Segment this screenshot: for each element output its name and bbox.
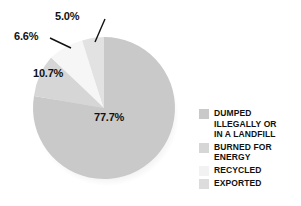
legend-item-label: BURNED FOR ENERGY: [214, 142, 272, 163]
legend-swatch-icon: [199, 109, 209, 119]
pie-chart-screenshot: 5.0% 6.6% 10.7% 77.7% DUMPED ILLEGALLY O…: [0, 0, 301, 206]
leader-line-recycled: [50, 38, 71, 48]
legend-item-burned-for-energy[interactable]: BURNED FOR ENERGY: [199, 142, 301, 163]
legend-item-dumped-illegally-or-in-a-landfill[interactable]: DUMPED ILLEGALLY OR IN A LANDFILL: [199, 108, 301, 140]
legend-label-line: ENERGY: [214, 152, 251, 162]
legend-item-exported[interactable]: EXPORTED: [199, 178, 301, 189]
legend-swatch-icon: [199, 166, 209, 176]
legend-label-line: ILLEGALLY OR: [214, 119, 277, 129]
legend-item-recycled[interactable]: RECYCLED: [199, 165, 301, 176]
legend-label-line: DUMPED: [214, 108, 251, 118]
pie-label-exported: 5.0%: [55, 10, 79, 22]
legend-label-line: RECYCLED: [214, 165, 262, 175]
legend-label-line: EXPORTED: [214, 178, 262, 188]
legend-swatch-icon: [199, 143, 209, 153]
pie-label-burned-for-energy: 10.7%: [33, 67, 63, 79]
legend-item-label: DUMPED ILLEGALLY OR IN A LANDFILL: [214, 108, 277, 140]
legend-label-line: IN A LANDFILL: [214, 129, 276, 139]
legend-item-label: RECYCLED: [214, 165, 262, 176]
pie-chart-area: 5.0% 6.6% 10.7% 77.7%: [0, 0, 200, 206]
pie-label-recycled: 6.6%: [14, 30, 38, 42]
legend-swatch-icon: [199, 179, 209, 189]
chart-legend: DUMPED ILLEGALLY OR IN A LANDFILL BURNED…: [199, 108, 301, 191]
legend-item-label: EXPORTED: [214, 178, 262, 189]
legend-label-line: BURNED FOR: [214, 142, 272, 152]
pie-label-dumped-illegally: 77.7%: [94, 111, 124, 123]
